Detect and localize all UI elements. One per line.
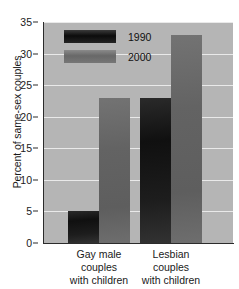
bar-2000-group-1 — [99, 98, 130, 243]
gridline — [44, 117, 233, 118]
y-tick-mark — [33, 243, 38, 244]
x-category-label: Lesbiancoupleswith children — [124, 248, 218, 287]
y-tick-mark — [33, 85, 38, 86]
x-category-label-line: with children — [124, 274, 218, 287]
y-tick-mark — [33, 211, 38, 212]
legend-item-1990: 1990 — [64, 28, 176, 45]
y-tick-label: 5 — [26, 205, 32, 217]
gridline — [44, 148, 233, 149]
y-tick-label: 20 — [20, 111, 32, 123]
x-axis-line — [43, 243, 234, 244]
y-axis-tick-labels: 05101520253035 — [0, 0, 40, 289]
gridline — [44, 22, 233, 23]
y-tick-label: 15 — [20, 142, 32, 154]
y-tick-mark — [33, 53, 38, 54]
gridline — [44, 85, 233, 86]
bar-1990-group-2 — [140, 98, 171, 243]
x-axis-category-labels: Gay malecoupleswith childrenLesbiancoupl… — [44, 248, 233, 289]
y-tick-label: 0 — [26, 237, 32, 249]
chart-legend: 1990 2000 — [64, 28, 176, 68]
y-tick-label: 10 — [20, 174, 32, 186]
plot-area: 1990 2000 — [44, 22, 233, 243]
bar-1990-group-1 — [68, 211, 99, 243]
legend-swatch-2000 — [64, 50, 116, 63]
bar-chart-figure: Percent of same-sex couples 051015202530… — [0, 0, 239, 289]
y-tick-label: 25 — [20, 79, 32, 91]
y-tick-mark — [33, 179, 38, 180]
x-category-label-line: Lesbian — [124, 248, 218, 261]
legend-item-2000: 2000 — [64, 48, 176, 65]
y-tick-mark — [33, 116, 38, 117]
legend-label-1990: 1990 — [128, 31, 151, 43]
y-tick-label: 35 — [20, 16, 32, 28]
y-tick-mark — [33, 148, 38, 149]
legend-swatch-1990 — [64, 30, 116, 43]
legend-label-2000: 2000 — [128, 51, 151, 63]
gridline — [44, 180, 233, 181]
y-tick-mark — [33, 22, 38, 23]
x-category-label-line: couples — [124, 261, 218, 274]
y-tick-label: 30 — [20, 48, 32, 60]
